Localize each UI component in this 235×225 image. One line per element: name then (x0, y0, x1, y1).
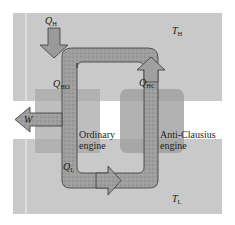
t-l-label: TL (172, 194, 182, 207)
q-h-label: QH (45, 16, 57, 29)
anti-clausius-engine-label: Anti-Clausius engine (160, 129, 216, 151)
t-h-label: TH (172, 26, 182, 39)
q-l-label: QL (63, 162, 74, 175)
engine-diagram: QH TH QHO QHC W Ordinary engine Anti-Cla… (0, 0, 235, 225)
q-ho-label: QHO (53, 79, 70, 92)
q-hc-label: QHC (139, 78, 155, 91)
w-label: W (24, 115, 32, 125)
diagram-graphics (0, 0, 235, 225)
ordinary-engine-label: Ordinary engine (79, 129, 115, 151)
